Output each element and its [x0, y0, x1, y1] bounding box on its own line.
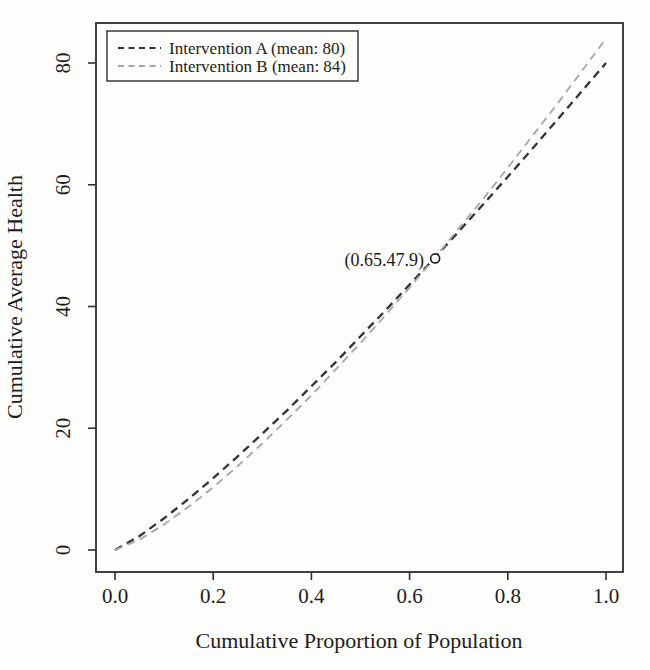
legend-item-label: Intervention A (mean: 80) [169, 39, 345, 58]
x-tick-label: 0.8 [495, 584, 521, 608]
crossing-annotation-label: (0.65.47.9) [345, 250, 425, 271]
curves [115, 39, 606, 550]
legend: Intervention A (mean: 80)Intervention B … [107, 31, 358, 81]
x-tick-label: 0.2 [200, 584, 226, 608]
x-axis-title: Cumulative Proportion of Population [196, 628, 523, 653]
crossing-point-marker [431, 254, 440, 263]
x-tick-label: 0.6 [396, 584, 422, 608]
figure: 0.00.20.40.60.81.0 020406080 (0.65.47.9)… [0, 0, 650, 670]
y-tick-label: 0 [51, 545, 75, 556]
y-tick-label: 20 [51, 418, 75, 439]
curve-intervention-b [115, 39, 606, 550]
curve-intervention-a [115, 63, 606, 550]
chart: 0.00.20.40.60.81.0 020406080 (0.65.47.9)… [0, 0, 650, 670]
legend-item-label: Intervention B (mean: 84) [169, 57, 346, 76]
plot-area-border [96, 23, 623, 572]
y-axis: 020406080 [51, 53, 96, 556]
y-axis-title: Cumulative Average Health [2, 175, 27, 419]
y-tick-label: 60 [51, 174, 75, 195]
x-tick-label: 0.4 [298, 584, 325, 608]
y-tick-label: 80 [51, 53, 75, 74]
y-tick-label: 40 [51, 296, 75, 317]
x-tick-label: 1.0 [593, 584, 619, 608]
x-tick-label: 0.0 [102, 584, 128, 608]
x-axis: 0.00.20.40.60.81.0 [102, 572, 619, 608]
